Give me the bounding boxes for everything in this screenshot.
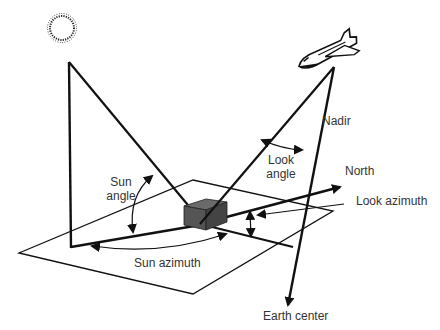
earth-center-label: Earth center	[263, 309, 328, 323]
sun-azimuth-baseline	[71, 225, 200, 247]
sun-azimuth-label: Sun azimuth	[134, 256, 201, 270]
nadir-line	[288, 67, 334, 305]
look-line	[200, 67, 334, 224]
space-shuttle-icon	[293, 27, 362, 73]
sun-angle-label: Sun angle	[101, 175, 141, 203]
look-azimuth-arc	[250, 212, 251, 236]
north-label: North	[345, 164, 374, 178]
sun-azimuth-arc	[92, 234, 226, 249]
ground-target-cube-icon	[184, 199, 227, 230]
nadir-label: Nadir	[322, 114, 351, 128]
look-azimuth-label: Look azimuth	[356, 194, 427, 208]
sun-icon	[48, 14, 77, 43]
ground-plane	[19, 180, 333, 294]
sun-vertical-line	[69, 62, 71, 248]
look-azimuth-baseline	[200, 224, 293, 247]
look-angle-label: Look angle	[261, 153, 301, 181]
